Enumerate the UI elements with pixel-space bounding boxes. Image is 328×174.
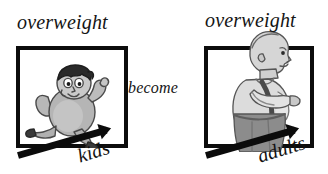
illustration-canvas: overweight <box>0 0 328 174</box>
become-connector-label: become <box>128 80 178 96</box>
left-overweight-caption: overweight <box>17 12 108 32</box>
right-overweight-caption: overweight <box>205 10 296 30</box>
